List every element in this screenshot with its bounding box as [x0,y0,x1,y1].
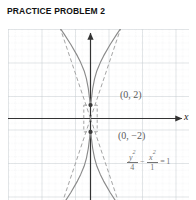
page-title: PRACTICE PROBLEM 2 [7,6,105,16]
equation-right-hand-side: 1 [166,157,170,166]
vertex-point-lower [88,130,92,134]
equation-term-2: x2 1 [147,151,158,172]
graph-grid [8,29,189,200]
hyperbola-graph-figure: y x (0, 2) (0, −2) y2 4 − x2 1 = 1 [8,29,189,200]
equation-term-1-denominator: 4 [128,163,136,172]
equation-term-1: y2 4 [127,151,138,172]
x-axis-label: x [184,111,188,122]
equation-term-1-numerator: y2 [127,151,138,162]
vertex-point-upper [88,103,92,107]
vertex-label-upper: (0, 2) [120,90,142,100]
equation-term-2-denominator: 1 [148,163,156,172]
vertex-label-lower: (0, −2) [118,131,145,141]
equation-term-2-exponent: 2 [153,149,156,155]
equation-equals-sign: = [160,157,165,166]
equation-term-1-exponent: 2 [133,149,136,155]
figure-page: PRACTICE PROBLEM 2 [0,0,196,200]
equation-term-2-numerator: x2 [147,151,158,162]
equation-operator: − [140,157,145,166]
hyperbola-equation: y2 4 − x2 1 = 1 [126,151,170,172]
graph-canvas [8,29,189,200]
